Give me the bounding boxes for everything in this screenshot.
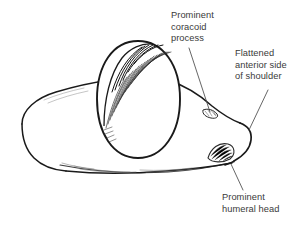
label-coracoid-line-2: coracoid bbox=[171, 22, 214, 34]
label-humeral-line-1: Prominent bbox=[222, 192, 279, 204]
anatomy-figure: Prominent coracoid process Flattened ant… bbox=[0, 0, 302, 227]
label-flattened-line-1: Flattened bbox=[235, 48, 287, 60]
label-flattened-line-2: anterior side bbox=[235, 60, 287, 72]
label-coracoid-line-1: Prominent bbox=[171, 10, 214, 22]
label-prominent-humeral-head: Prominent humeral head bbox=[222, 192, 279, 215]
label-coracoid-line-3: process bbox=[171, 33, 214, 45]
label-humeral-line-2: humeral head bbox=[222, 204, 279, 216]
label-flattened-line-3: of shoulder bbox=[235, 71, 287, 83]
label-prominent-coracoid-process: Prominent coracoid process bbox=[171, 10, 214, 45]
coracoid-egg-group bbox=[97, 41, 180, 158]
label-flattened-anterior-side-of-shoulder: Flattened anterior side of shoulder bbox=[235, 48, 287, 83]
